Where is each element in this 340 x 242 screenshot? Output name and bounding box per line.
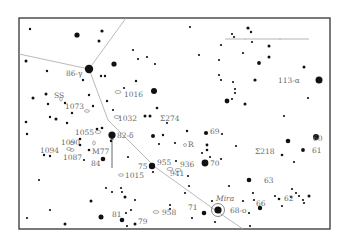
star-dot (152, 171, 154, 173)
star-dot (286, 139, 291, 144)
star-dot (154, 63, 156, 65)
star-label: Σ274 (160, 114, 180, 123)
star-dot (235, 145, 237, 147)
star-dot (111, 191, 113, 193)
star-dot (249, 225, 251, 227)
star-dot (293, 161, 295, 163)
galaxy-icon (184, 144, 187, 147)
star-dot (132, 49, 134, 51)
star-dot (257, 61, 261, 65)
star-dot (174, 142, 176, 144)
star-label: 1015 (125, 171, 144, 180)
star-dot (187, 175, 189, 177)
star-dot (244, 103, 247, 106)
scale-bar (225, 38, 309, 40)
star-dot (204, 131, 208, 135)
star-dot (231, 98, 233, 100)
star-dot (225, 99, 230, 104)
star-dot (25, 60, 28, 63)
star-dot (111, 61, 116, 66)
star-dot (247, 178, 252, 183)
star-dot (211, 200, 213, 202)
mira-star (214, 206, 221, 213)
star-dot (110, 140, 112, 142)
star-dot (248, 212, 250, 214)
mira-star-marker (212, 204, 225, 217)
star-dot (188, 185, 190, 187)
star-label: 66 (256, 199, 266, 208)
star-dot (253, 78, 256, 81)
galaxy-icon (95, 131, 101, 134)
star-dot (242, 200, 244, 202)
star-label: 69 (210, 127, 220, 136)
boundary-north (89, 18, 126, 69)
star-dot (49, 209, 51, 211)
star-label: 1032 (118, 114, 137, 123)
star-dot (202, 160, 209, 167)
star-dot (123, 87, 125, 89)
star-dot (71, 112, 73, 114)
star-dot (202, 211, 207, 216)
star-label: 1016 (124, 90, 143, 99)
star-dot (66, 122, 68, 124)
star-dot (209, 156, 211, 158)
galaxy-icon (115, 91, 121, 94)
galaxy-icon (93, 141, 96, 145)
star-dot (149, 163, 155, 169)
star-label: Mira (215, 194, 234, 203)
star-dot (218, 74, 220, 76)
star-dot (220, 79, 222, 81)
star-dot (218, 59, 220, 61)
star-label: 63 (264, 176, 274, 185)
star-dot (85, 65, 93, 73)
star-dot (228, 185, 230, 187)
star-label: 941 (170, 169, 184, 178)
star-dot (134, 199, 136, 201)
star-label: 1094 (40, 146, 59, 155)
star-dot (281, 154, 284, 157)
star-dot (191, 217, 193, 219)
star-dot (134, 223, 137, 226)
star-label: 61 (312, 146, 322, 155)
star-dot (144, 115, 147, 118)
star-dot (274, 195, 276, 197)
boundary-west (19, 54, 89, 69)
star-dot (283, 115, 285, 117)
star-label: 1073 (65, 102, 84, 111)
stars (25, 26, 323, 227)
star-dot (158, 143, 160, 145)
star-dot (295, 192, 297, 194)
star-dot (162, 134, 164, 136)
star-dot (214, 221, 216, 223)
star-dot (251, 41, 253, 43)
star-dot (26, 217, 28, 219)
star-dot (233, 36, 235, 38)
star-label: 86-γ (66, 69, 83, 78)
star-dot (206, 144, 209, 147)
star-dot (127, 156, 129, 158)
star-dot (105, 187, 107, 189)
star-dot (234, 92, 236, 94)
star-dot (64, 223, 67, 226)
star-dot (220, 44, 222, 46)
star-labels: 86-γSS107310161032Σ274113-α105582-δ10901… (40, 69, 323, 226)
star-dot (268, 56, 271, 59)
star-dot (151, 88, 157, 94)
star-dot (83, 159, 85, 161)
star-dot (316, 77, 323, 84)
star-dot (253, 199, 255, 201)
galaxy-icon (85, 110, 90, 113)
star-dot (120, 187, 122, 189)
star-dot (100, 29, 103, 32)
star-dot (98, 40, 101, 43)
star-dot (100, 75, 102, 77)
star-dot (49, 116, 51, 118)
star-dot (278, 198, 281, 201)
star-dot (90, 200, 93, 203)
star-dot (96, 128, 99, 131)
star-dot (26, 133, 28, 135)
star-dot (221, 133, 223, 135)
star-dot (101, 157, 106, 162)
star-dot (32, 97, 35, 100)
star-dot (29, 28, 31, 30)
